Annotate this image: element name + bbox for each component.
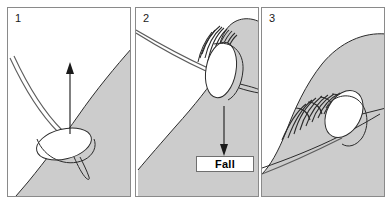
leash-line-a	[10, 58, 58, 132]
panel-1-number: 1	[15, 12, 21, 24]
leash-line-b	[136, 33, 208, 72]
leash-line-b	[14, 56, 62, 130]
panel-2: 2 Fall	[135, 7, 259, 197]
panel-1: 1	[7, 7, 131, 197]
panel-3-number: 3	[269, 12, 275, 24]
fall-label-text: Fall	[215, 158, 235, 170]
fall-callout: Fall	[196, 156, 254, 172]
panel-2-number: 2	[143, 12, 149, 24]
panel-3: 3	[261, 7, 385, 197]
figure-container: 1	[0, 0, 392, 206]
panel-1-illustration	[8, 8, 131, 197]
leash-line-a	[136, 30, 208, 68]
panel-3-illustration	[262, 8, 385, 197]
